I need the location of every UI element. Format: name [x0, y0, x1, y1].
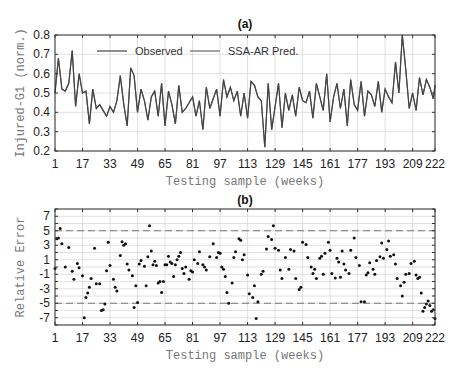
data-point: [155, 264, 158, 267]
data-point: [256, 300, 259, 303]
data-point: [196, 262, 199, 265]
data-point: [335, 257, 338, 260]
data-point: [174, 263, 177, 266]
data-point: [428, 304, 431, 307]
data-point: [212, 242, 215, 245]
x-tick-label: 33: [103, 331, 117, 345]
data-point: [78, 266, 81, 269]
data-point: [176, 258, 179, 261]
x-tick-label: 209: [403, 157, 423, 171]
x-tick-label: 17: [76, 157, 90, 171]
data-point: [293, 250, 296, 253]
data-point: [93, 247, 96, 250]
data-point: [339, 276, 342, 279]
x-tick-label: 97: [213, 157, 227, 171]
data-point: [294, 277, 297, 280]
data-point: [167, 255, 170, 258]
y-tick-label: 3: [43, 238, 50, 252]
data-point: [177, 255, 180, 258]
data-point: [126, 263, 129, 266]
data-point: [401, 295, 404, 298]
data-point: [162, 280, 165, 283]
data-point: [358, 264, 361, 267]
data-point: [253, 284, 256, 287]
data-point: [225, 291, 228, 294]
data-point: [301, 241, 304, 244]
x-tick-label: 65: [158, 331, 172, 345]
data-point: [182, 272, 185, 275]
y-tick-label: -5: [39, 296, 50, 310]
data-point: [76, 262, 79, 265]
data-point: [404, 273, 407, 276]
panel-a-line-chart: (a) 117334965819711312914516117719320922…: [14, 17, 445, 189]
data-point: [251, 296, 254, 299]
data-point: [389, 255, 392, 258]
data-point: [203, 266, 206, 269]
data-point: [165, 263, 168, 266]
data-point: [234, 250, 237, 253]
data-point: [67, 246, 70, 249]
data-point: [329, 249, 332, 252]
y-tick-label: -7: [39, 311, 50, 325]
data-point: [306, 256, 309, 259]
data-point: [138, 263, 141, 266]
x-tick-label: 129: [265, 157, 285, 171]
data-point: [272, 224, 275, 227]
x-tick-label: 81: [186, 331, 200, 345]
y-tick-label: 0.3: [33, 125, 50, 139]
data-point: [396, 277, 399, 280]
data-point: [239, 239, 242, 242]
data-point: [172, 275, 175, 278]
data-point: [160, 291, 163, 294]
data-point: [179, 251, 182, 254]
x-tick-label: 193: [375, 157, 395, 171]
data-point: [95, 282, 98, 285]
data-point: [188, 278, 191, 281]
data-point: [274, 247, 277, 250]
data-point: [423, 306, 426, 309]
data-point: [270, 238, 273, 241]
data-point: [181, 267, 184, 270]
data-point: [227, 302, 230, 305]
data-point: [267, 235, 270, 238]
data-point: [124, 242, 127, 245]
legend-observed-label: Observed: [135, 45, 183, 57]
data-point: [134, 284, 137, 287]
data-point: [330, 272, 333, 275]
data-point: [349, 249, 352, 252]
x-tick-label: 222: [425, 331, 445, 345]
data-point: [232, 256, 235, 259]
x-tick-label: 49: [131, 157, 145, 171]
data-point: [394, 263, 397, 266]
data-point: [310, 266, 313, 269]
x-tick-label: 177: [348, 157, 368, 171]
data-point: [287, 268, 290, 271]
data-point: [408, 272, 411, 275]
data-point: [158, 280, 161, 283]
data-point: [222, 268, 225, 271]
data-point: [403, 281, 406, 284]
data-point: [337, 260, 340, 263]
data-point: [425, 302, 428, 305]
data-point: [64, 266, 67, 269]
x-tick-label: 161: [320, 157, 340, 171]
data-point: [231, 281, 234, 284]
data-point: [102, 308, 105, 311]
y-tick-label: 5: [43, 224, 50, 238]
data-point: [415, 273, 418, 276]
panel-a-title: (a): [238, 17, 253, 31]
data-point: [224, 275, 227, 278]
data-point: [255, 317, 258, 320]
data-point: [375, 259, 378, 262]
data-point: [289, 248, 292, 251]
data-point: [413, 260, 416, 263]
data-point: [320, 255, 323, 258]
y-tick-label: 0.6: [33, 67, 50, 81]
panel-b-points: [54, 224, 437, 320]
data-point: [385, 248, 388, 251]
data-point: [248, 292, 251, 295]
data-point: [341, 250, 344, 253]
x-tick-label: 222: [425, 157, 445, 171]
x-tick-label: 97: [213, 331, 227, 345]
data-point: [83, 316, 86, 319]
